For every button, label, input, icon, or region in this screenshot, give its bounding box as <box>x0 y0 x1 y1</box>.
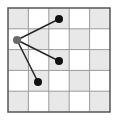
grid-cell <box>69 91 89 112</box>
grid-cell <box>49 91 69 112</box>
node-origin <box>13 36 21 44</box>
grid-cell <box>69 50 89 71</box>
grid-cell <box>8 91 28 112</box>
grid-cell <box>8 8 28 29</box>
grid-graph-diagram <box>0 0 117 120</box>
grid-cell <box>69 8 89 29</box>
grid-cell <box>90 50 110 71</box>
node-bottom <box>34 78 42 86</box>
grid-cell <box>90 8 110 29</box>
diagram-canvas <box>0 0 117 120</box>
grid-cell <box>90 91 110 112</box>
grid-cell <box>49 29 69 50</box>
node-top <box>55 15 63 23</box>
grid-cell <box>28 91 48 112</box>
grid-cell <box>90 29 110 50</box>
grid-cell <box>90 70 110 91</box>
grid-cell <box>8 70 28 91</box>
node-middle <box>55 57 63 65</box>
grid-cell <box>69 70 89 91</box>
grid-cell <box>49 70 69 91</box>
grid-cell <box>8 50 28 71</box>
grid-cell <box>69 29 89 50</box>
